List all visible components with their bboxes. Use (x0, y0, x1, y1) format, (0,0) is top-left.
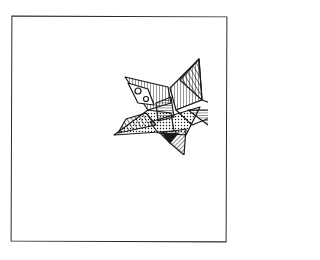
patterned-star-illustration (108, 55, 208, 155)
